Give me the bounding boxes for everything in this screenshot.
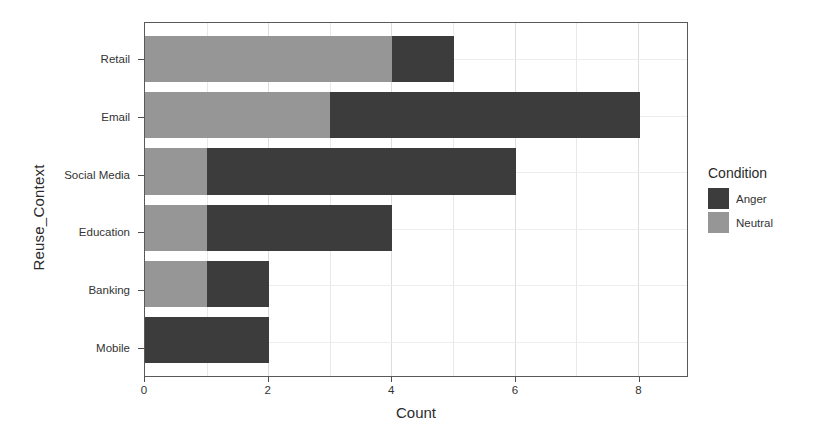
x-axis-tick-marks: [144, 377, 688, 383]
bar-segment-anger: [207, 261, 269, 307]
legend-title: Condition: [708, 165, 816, 181]
y-axis-tick-label: Education: [44, 203, 136, 261]
legend-item-label: Anger: [736, 193, 767, 205]
x-axis-title: Count: [144, 404, 688, 421]
bar-row: [145, 87, 687, 143]
y-axis-tick-label-text: Banking: [88, 284, 130, 296]
y-axis-tick-label-text: Email: [101, 111, 130, 123]
y-axis-tick-label: Banking: [44, 261, 136, 319]
bar-row: [145, 200, 687, 256]
bar-series: [145, 23, 687, 376]
legend-item-neutral[interactable]: Neutral: [708, 212, 816, 233]
x-axis-tick-label-text: 0: [141, 384, 147, 396]
bar-row: [145, 31, 687, 87]
y-axis-tick-label-text: Retail: [101, 53, 130, 65]
bar-stack: [145, 205, 392, 251]
bar-row: [145, 256, 687, 312]
x-axis-tick-mark: [515, 377, 516, 382]
y-axis-tick-label-text: Education: [79, 226, 130, 238]
y-axis-tick-label-text: Mobile: [96, 342, 130, 354]
x-axis-tick-label-text: 6: [512, 384, 518, 396]
legend-key-swatch: [708, 188, 729, 209]
legend-items: AngerNeutral: [708, 188, 816, 233]
y-axis-tick-label: Mobile: [44, 319, 136, 377]
stacked-bar-chart: Reuse_Context RetailEmailSocial MediaEdu…: [0, 0, 822, 435]
x-axis-tick-mark: [639, 377, 640, 382]
bar-segment-neutral: [145, 92, 330, 138]
x-axis-tick-mark: [391, 377, 392, 382]
bar-segment-anger: [207, 205, 392, 251]
bar-segment-anger: [145, 317, 269, 363]
x-axis-tick-label-text: 8: [635, 384, 641, 396]
bar-segment-neutral: [145, 261, 207, 307]
plot-area: [145, 23, 687, 376]
y-axis-tick-label: Email: [44, 88, 136, 146]
bar-row: [145, 143, 687, 199]
bar-segment-anger: [392, 36, 454, 82]
bar-stack: [145, 317, 269, 363]
x-axis-tick-label-text: 4: [388, 384, 394, 396]
y-axis-tick-label: Social Media: [44, 146, 136, 204]
x-axis-tick-mark: [268, 377, 269, 382]
bar-stack: [145, 261, 269, 307]
legend: Condition AngerNeutral: [708, 165, 816, 236]
y-axis-tick-label-text: Social Media: [64, 169, 130, 181]
legend-item-label: Neutral: [736, 217, 773, 229]
bar-row: [145, 312, 687, 368]
y-axis-tick-label: Retail: [44, 30, 136, 88]
bar-stack: [145, 148, 516, 194]
y-axis-tick-labels: RetailEmailSocial MediaEducationBankingM…: [44, 30, 136, 377]
bar-segment-anger: [330, 92, 639, 138]
bar-segment-neutral: [145, 36, 392, 82]
x-axis-tick-mark: [144, 377, 145, 382]
legend-item-anger[interactable]: Anger: [708, 188, 816, 209]
legend-key-swatch: [708, 212, 729, 233]
bar-segment-neutral: [145, 148, 207, 194]
bar-segment-anger: [207, 148, 516, 194]
plot-panel: [144, 22, 688, 377]
bar-stack: [145, 92, 640, 138]
x-axis-title-text: Count: [396, 404, 436, 421]
bar-stack: [145, 36, 454, 82]
bar-segment-neutral: [145, 205, 207, 251]
x-axis-tick-label-text: 2: [264, 384, 270, 396]
x-axis-tick-labels: 02468: [144, 384, 688, 400]
